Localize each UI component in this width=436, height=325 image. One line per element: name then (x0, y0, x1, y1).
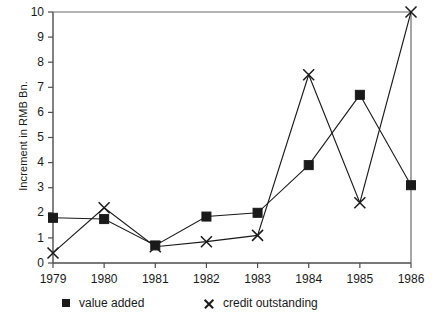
data-point-cross (354, 197, 365, 208)
y-tick-label: 10 (31, 5, 45, 19)
square-marker-icon (62, 299, 70, 307)
data-point-square (304, 161, 313, 170)
line-chart: Increment in RMB Bn. 012345678910 197919… (0, 0, 436, 325)
y-tick-label: 3 (37, 180, 44, 194)
data-series-layer (48, 7, 417, 259)
x-tick-label: 1981 (142, 272, 169, 286)
x-tick-label: 1979 (40, 272, 67, 286)
plot-area: 012345678910 197919801981198219831984198… (0, 0, 436, 325)
series-value-added (49, 90, 416, 250)
y-tick-label: 6 (37, 105, 44, 119)
x-tick-label: 1980 (91, 272, 118, 286)
x-tick-label: 1985 (347, 272, 374, 286)
x-tick-label: 1983 (244, 272, 271, 286)
data-point-square (202, 212, 211, 221)
data-point-cross (99, 202, 110, 213)
plot-frame (53, 12, 411, 263)
data-point-square (253, 208, 262, 217)
y-axis-ticks: 012345678910 (31, 5, 53, 270)
data-point-square (407, 181, 416, 190)
y-tick-label: 1 (37, 231, 44, 245)
y-tick-label: 2 (37, 205, 44, 219)
x-tick-label: 1984 (295, 272, 322, 286)
x-axis-ticks: 19791980198119821983198419851986 (40, 263, 425, 286)
data-point-square (355, 90, 364, 99)
data-point-square (49, 213, 58, 222)
data-point-square (151, 241, 160, 250)
x-tick-label: 1982 (193, 272, 220, 286)
legend-item-value-added: value added (62, 296, 144, 310)
y-tick-label: 0 (37, 256, 44, 270)
data-point-cross (303, 69, 314, 80)
x-tick-label: 1986 (398, 272, 425, 286)
cross-marker-icon (203, 298, 214, 309)
y-tick-label: 8 (37, 55, 44, 69)
y-tick-label: 5 (37, 130, 44, 144)
y-tick-label: 7 (37, 80, 44, 94)
legend-item-credit-outstanding: credit outstanding (203, 296, 318, 310)
y-tick-label: 4 (37, 155, 44, 169)
legend-label-value-added: value added (79, 296, 144, 310)
legend-label-credit-outstanding: credit outstanding (223, 296, 318, 310)
data-point-square (100, 215, 109, 224)
y-tick-label: 9 (37, 30, 44, 44)
chart-legend: value added credit outstanding (0, 296, 436, 320)
